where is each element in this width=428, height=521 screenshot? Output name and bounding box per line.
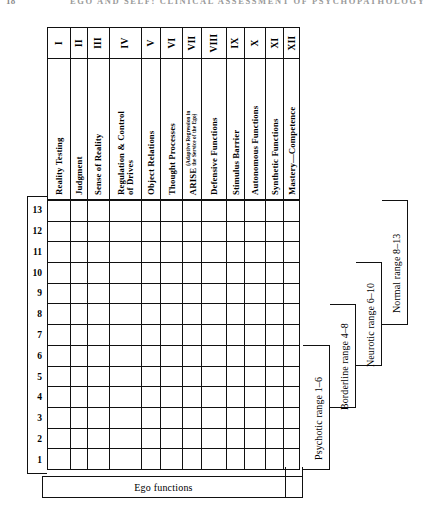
grid-cell[interactable] (161, 429, 183, 449)
grid-cell[interactable] (266, 222, 284, 242)
grid-cell[interactable] (48, 222, 71, 242)
grid-cell[interactable] (48, 408, 71, 428)
grid-cell[interactable] (202, 367, 227, 387)
column-header-iv[interactable]: IVRegulation & Controlof Drives (110, 28, 143, 199)
grid-cell[interactable] (202, 222, 227, 242)
grid-cell[interactable] (142, 201, 161, 221)
grid-cell[interactable] (227, 201, 246, 221)
grid-cell[interactable] (202, 242, 227, 262)
grid-cell[interactable] (202, 346, 227, 366)
grid-cell[interactable] (161, 201, 183, 221)
rating-grid[interactable] (47, 200, 300, 470)
grid-cell[interactable] (245, 201, 266, 221)
grid-cell[interactable] (183, 304, 202, 324)
grid-cell[interactable] (48, 242, 71, 262)
grid-cell[interactable] (266, 367, 284, 387)
grid-cell[interactable] (110, 387, 143, 407)
grid-cell[interactable] (284, 346, 299, 366)
grid-cell[interactable] (142, 284, 161, 304)
grid-cell[interactable] (245, 408, 266, 428)
grid-cell[interactable] (284, 242, 299, 262)
grid-cell[interactable] (110, 325, 143, 345)
column-header-vi[interactable]: VIThought Processes (161, 28, 183, 199)
grid-cell[interactable] (284, 429, 299, 449)
grid-cell[interactable] (183, 408, 202, 428)
grid-cell[interactable] (202, 263, 227, 283)
grid-cell[interactable] (110, 449, 143, 469)
grid-cell[interactable] (142, 429, 161, 449)
grid-cell[interactable] (266, 429, 284, 449)
grid-cell[interactable] (88, 429, 110, 449)
grid-cell[interactable] (227, 222, 246, 242)
grid-cell[interactable] (183, 201, 202, 221)
grid-cell[interactable] (71, 429, 88, 449)
grid-cell[interactable] (110, 367, 143, 387)
grid-cell[interactable] (161, 346, 183, 366)
grid-cell[interactable] (88, 222, 110, 242)
column-header-xii[interactable]: XIIMastery—Competence (284, 28, 299, 199)
grid-cell[interactable] (142, 346, 161, 366)
grid-cell[interactable] (266, 346, 284, 366)
grid-cell[interactable] (284, 449, 299, 469)
column-header-i[interactable]: IReality Testing (48, 28, 71, 199)
grid-cell[interactable] (142, 242, 161, 262)
grid-cell[interactable] (266, 325, 284, 345)
grid-cell[interactable] (284, 408, 299, 428)
grid-cell[interactable] (245, 263, 266, 283)
grid-cell[interactable] (110, 201, 143, 221)
grid-cell[interactable] (142, 408, 161, 428)
grid-cell[interactable] (245, 367, 266, 387)
grid-cell[interactable] (202, 325, 227, 345)
grid-cell[interactable] (227, 325, 246, 345)
grid-cell[interactable] (245, 346, 266, 366)
grid-cell[interactable] (183, 222, 202, 242)
grid-cell[interactable] (110, 242, 143, 262)
column-header-ix[interactable]: IXStimulus Barrier (227, 28, 246, 199)
grid-cell[interactable] (266, 201, 284, 221)
grid-cell[interactable] (245, 242, 266, 262)
grid-cell[interactable] (183, 387, 202, 407)
grid-cell[interactable] (110, 263, 143, 283)
grid-cell[interactable] (266, 408, 284, 428)
grid-cell[interactable] (183, 263, 202, 283)
grid-cell[interactable] (284, 284, 299, 304)
grid-cell[interactable] (110, 346, 143, 366)
grid-cell[interactable] (245, 222, 266, 242)
grid-cell[interactable] (88, 263, 110, 283)
grid-cell[interactable] (202, 449, 227, 469)
grid-cell[interactable] (88, 449, 110, 469)
grid-cell[interactable] (71, 387, 88, 407)
grid-cell[interactable] (284, 325, 299, 345)
grid-cell[interactable] (48, 449, 71, 469)
grid-cell[interactable] (266, 284, 284, 304)
grid-cell[interactable] (88, 387, 110, 407)
column-header-viii[interactable]: VIIIDefensive Functions (202, 28, 227, 199)
grid-cell[interactable] (161, 284, 183, 304)
grid-cell[interactable] (245, 387, 266, 407)
column-header-iii[interactable]: IIISense of Reality (88, 28, 110, 199)
grid-cell[interactable] (227, 284, 246, 304)
grid-cell[interactable] (142, 387, 161, 407)
grid-cell[interactable] (88, 408, 110, 428)
grid-cell[interactable] (161, 222, 183, 242)
grid-cell[interactable] (161, 449, 183, 469)
grid-cell[interactable] (227, 387, 246, 407)
grid-cell[interactable] (88, 367, 110, 387)
grid-cell[interactable] (202, 201, 227, 221)
grid-cell[interactable] (142, 367, 161, 387)
grid-cell[interactable] (48, 387, 71, 407)
grid-cell[interactable] (88, 325, 110, 345)
grid-cell[interactable] (142, 449, 161, 469)
grid-cell[interactable] (142, 325, 161, 345)
grid-cell[interactable] (71, 304, 88, 324)
grid-cell[interactable] (183, 325, 202, 345)
column-header-x[interactable]: XAutonomous Functions (245, 28, 266, 199)
grid-cell[interactable] (161, 242, 183, 262)
grid-cell[interactable] (202, 304, 227, 324)
grid-cell[interactable] (110, 304, 143, 324)
grid-cell[interactable] (110, 284, 143, 304)
grid-cell[interactable] (142, 304, 161, 324)
grid-cell[interactable] (88, 242, 110, 262)
grid-cell[interactable] (245, 429, 266, 449)
grid-cell[interactable] (48, 304, 71, 324)
